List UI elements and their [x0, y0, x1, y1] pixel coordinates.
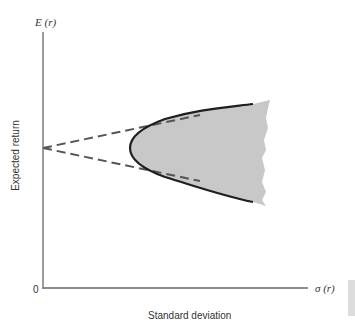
x-axis-label: Standard deviation — [148, 310, 231, 321]
y-axis-symbol: E (r) — [35, 16, 56, 28]
x-axis-symbol: σ (r) — [315, 282, 335, 294]
efficient-frontier-chart — [0, 0, 355, 335]
y-axis-label: Expected return — [10, 116, 21, 196]
origin-label: 0 — [33, 284, 39, 295]
edge-bar — [348, 280, 355, 316]
